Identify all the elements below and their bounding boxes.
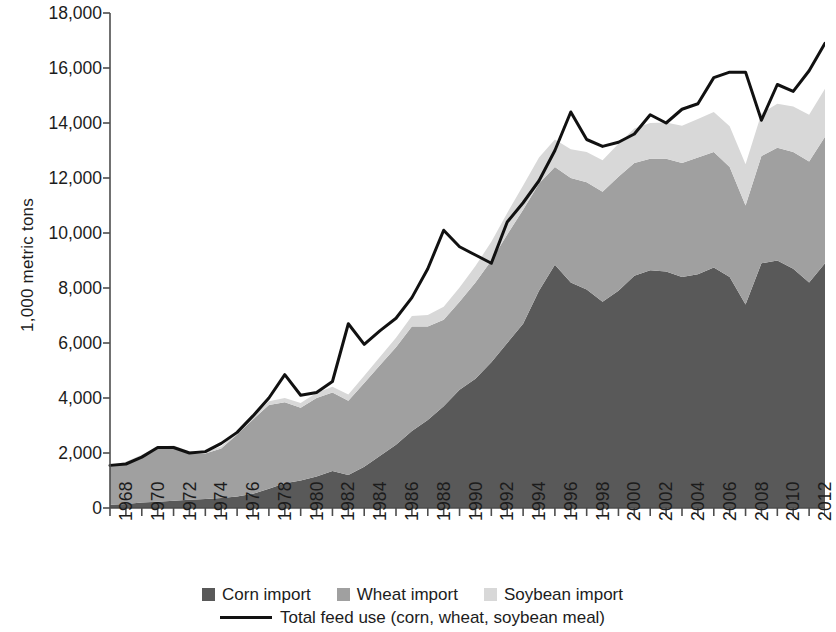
x-axis-tick-label: 1996 — [561, 481, 582, 521]
legend-swatch-icon — [337, 588, 350, 601]
x-axis-tick-label: 1988 — [434, 481, 455, 521]
x-axis-tick-label: 1990 — [466, 481, 487, 521]
x-axis-tick-label: 2012 — [815, 481, 836, 521]
legend-label: Soybean import — [504, 585, 623, 605]
legend-item-soybean-import: Soybean import — [484, 585, 623, 605]
legend-row-areas: Corn importWheat importSoybean import — [0, 583, 825, 606]
total-feed-use-line-icon — [220, 616, 272, 619]
legend-label: Wheat import — [357, 585, 458, 605]
x-axis-tick-label: 2004 — [688, 481, 709, 521]
legend-swatch-icon — [484, 588, 497, 601]
x-axis-tick-label: 1982 — [338, 481, 359, 521]
legend-swatch-icon — [202, 588, 215, 601]
x-axis-tick-label: 1980 — [307, 481, 328, 521]
x-axis-tick-label: 1978 — [275, 481, 296, 521]
x-axis-tick-label: 1968 — [116, 481, 137, 521]
x-axis-tick-label: 2002 — [656, 481, 677, 521]
x-axis-tick-label: 2000 — [624, 481, 645, 521]
legend-row-line: Total feed use (corn, wheat, soybean mea… — [0, 606, 825, 629]
x-axis-tick-label: 1986 — [402, 481, 423, 521]
legend-item-wheat-import: Wheat import — [337, 585, 458, 605]
x-axis-tick-label: 2006 — [720, 481, 741, 521]
legend-label-total-feed-use: Total feed use (corn, wheat, soybean mea… — [280, 608, 605, 628]
chart-legend: Corn importWheat importSoybean import To… — [0, 583, 825, 629]
x-axis-tick-label: 2010 — [783, 481, 804, 521]
legend-item-corn-import: Corn import — [202, 585, 311, 605]
x-axis-tick-label: 1984 — [370, 481, 391, 521]
x-axis-tick-label: 1992 — [497, 481, 518, 521]
x-axis-tick-label: 2008 — [752, 481, 773, 521]
x-axis-tick-label: 1998 — [593, 481, 614, 521]
x-axis-tick-label: 1974 — [211, 481, 232, 521]
x-axis-tick-label: 1994 — [529, 481, 550, 521]
x-axis-tick-label: 1976 — [243, 481, 264, 521]
legend-label: Corn import — [222, 585, 311, 605]
x-axis-tick-label: 1970 — [148, 481, 169, 521]
x-axis-tick-label: 1972 — [180, 481, 201, 521]
legend-item-total-feed-use: Total feed use (corn, wheat, soybean mea… — [220, 608, 605, 628]
